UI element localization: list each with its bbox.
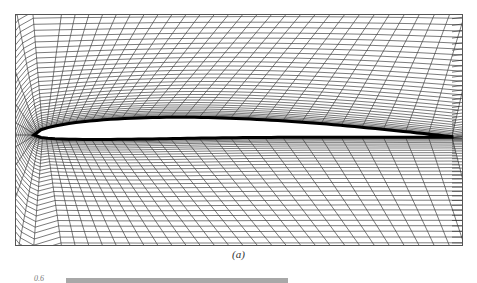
next-figure-bar: [66, 278, 288, 283]
next-figure-tick-label: 0.6: [34, 274, 44, 283]
airfoil-mesh-figure: [15, 14, 463, 246]
mesh-plot: [16, 15, 462, 245]
figure-caption: (a): [0, 248, 477, 260]
